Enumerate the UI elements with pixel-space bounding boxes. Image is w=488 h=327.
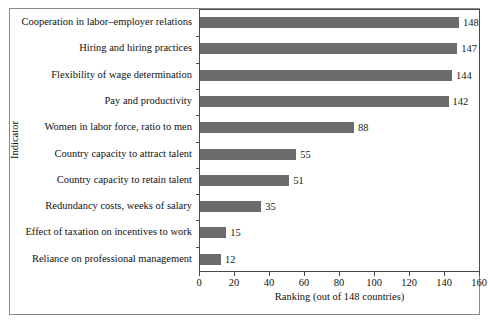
bar [200, 43, 457, 54]
bar [200, 96, 449, 107]
x-axis-tick-label: 40 [264, 277, 275, 288]
bar-value-label: 147 [461, 40, 477, 57]
x-axis-tick [409, 272, 410, 276]
bar-row: 55 [200, 142, 479, 168]
y-axis-tick [196, 63, 200, 64]
x-axis-tick [444, 272, 445, 276]
bar-row: 15 [200, 220, 479, 246]
bar-row: 12 [200, 247, 479, 273]
category-label: Reliance on professional management [32, 246, 192, 272]
x-axis-tick-label: 0 [196, 277, 201, 288]
bar-row: 88 [200, 115, 479, 141]
x-axis-tick-label: 120 [401, 277, 417, 288]
bar-row: 148 [200, 10, 479, 36]
y-axis-tick [196, 194, 200, 195]
bar [200, 149, 296, 160]
x-axis-tick-label: 100 [366, 277, 382, 288]
y-axis-tick [196, 89, 200, 90]
x-axis: 020406080100120140160 [199, 272, 480, 292]
bar [200, 70, 452, 81]
y-axis-title: Indicator [9, 121, 20, 159]
bar [200, 201, 261, 212]
bar-value-label: 144 [456, 67, 472, 84]
x-axis-tick-label: 80 [334, 277, 345, 288]
bar-value-label: 88 [358, 119, 369, 136]
x-axis-tick [339, 272, 340, 276]
y-axis-tick [196, 36, 200, 37]
bar-value-label: 12 [225, 251, 236, 268]
category-label: Country capacity to retain talent [57, 167, 192, 193]
bar-row: 144 [200, 63, 479, 89]
category-label: Redundancy costs, weeks of salary [45, 193, 192, 219]
bar [200, 227, 226, 238]
bar-value-label: 55 [300, 146, 311, 163]
bar-value-label: 148 [463, 14, 479, 31]
x-axis-tick [304, 272, 305, 276]
bar-row: 142 [200, 89, 479, 115]
category-label: Women in labor force, ratio to men [44, 114, 192, 140]
category-label: Hiring and hiring practices [79, 35, 192, 61]
x-axis-tick-label: 140 [436, 277, 452, 288]
x-axis-tick-label: 160 [471, 277, 487, 288]
y-axis-tick [196, 220, 200, 221]
category-label: Country capacity to attract talent [54, 141, 192, 167]
plot-area: 148147144142885551351512 [199, 9, 480, 272]
bar-value-label: 35 [265, 198, 276, 215]
bar [200, 17, 459, 28]
y-axis-tick [196, 142, 200, 143]
category-axis-labels: Cooperation in labor–employer relationsH… [18, 9, 196, 272]
category-label: Flexibility of wage determination [51, 62, 192, 88]
bar [200, 175, 289, 186]
bar [200, 254, 221, 265]
bar [200, 122, 354, 133]
x-axis-tick [234, 272, 235, 276]
bar-value-label: 142 [453, 93, 469, 110]
bar-value-label: 15 [230, 224, 241, 241]
bar-value-label: 51 [293, 172, 304, 189]
x-axis-tick [199, 272, 200, 276]
bar-row: 35 [200, 194, 479, 220]
x-axis-tick-label: 20 [229, 277, 240, 288]
category-label: Pay and productivity [105, 88, 193, 114]
bar-chart-figure: Cooperation in labor–employer relationsH… [0, 0, 488, 327]
bar-row: 147 [200, 36, 479, 62]
category-label: Effect of taxation on incentives to work [25, 219, 192, 245]
y-axis-tick [196, 115, 200, 116]
y-axis-tick [196, 247, 200, 248]
x-axis-tick [269, 272, 270, 276]
bar-row: 51 [200, 168, 479, 194]
y-axis-tick [196, 168, 200, 169]
x-axis-tick [374, 272, 375, 276]
x-axis-title: Ranking (out of 148 countries) [199, 291, 480, 302]
x-axis-tick-label: 60 [299, 277, 310, 288]
category-label: Cooperation in labor–employer relations [21, 9, 192, 35]
x-axis-tick [479, 272, 480, 276]
